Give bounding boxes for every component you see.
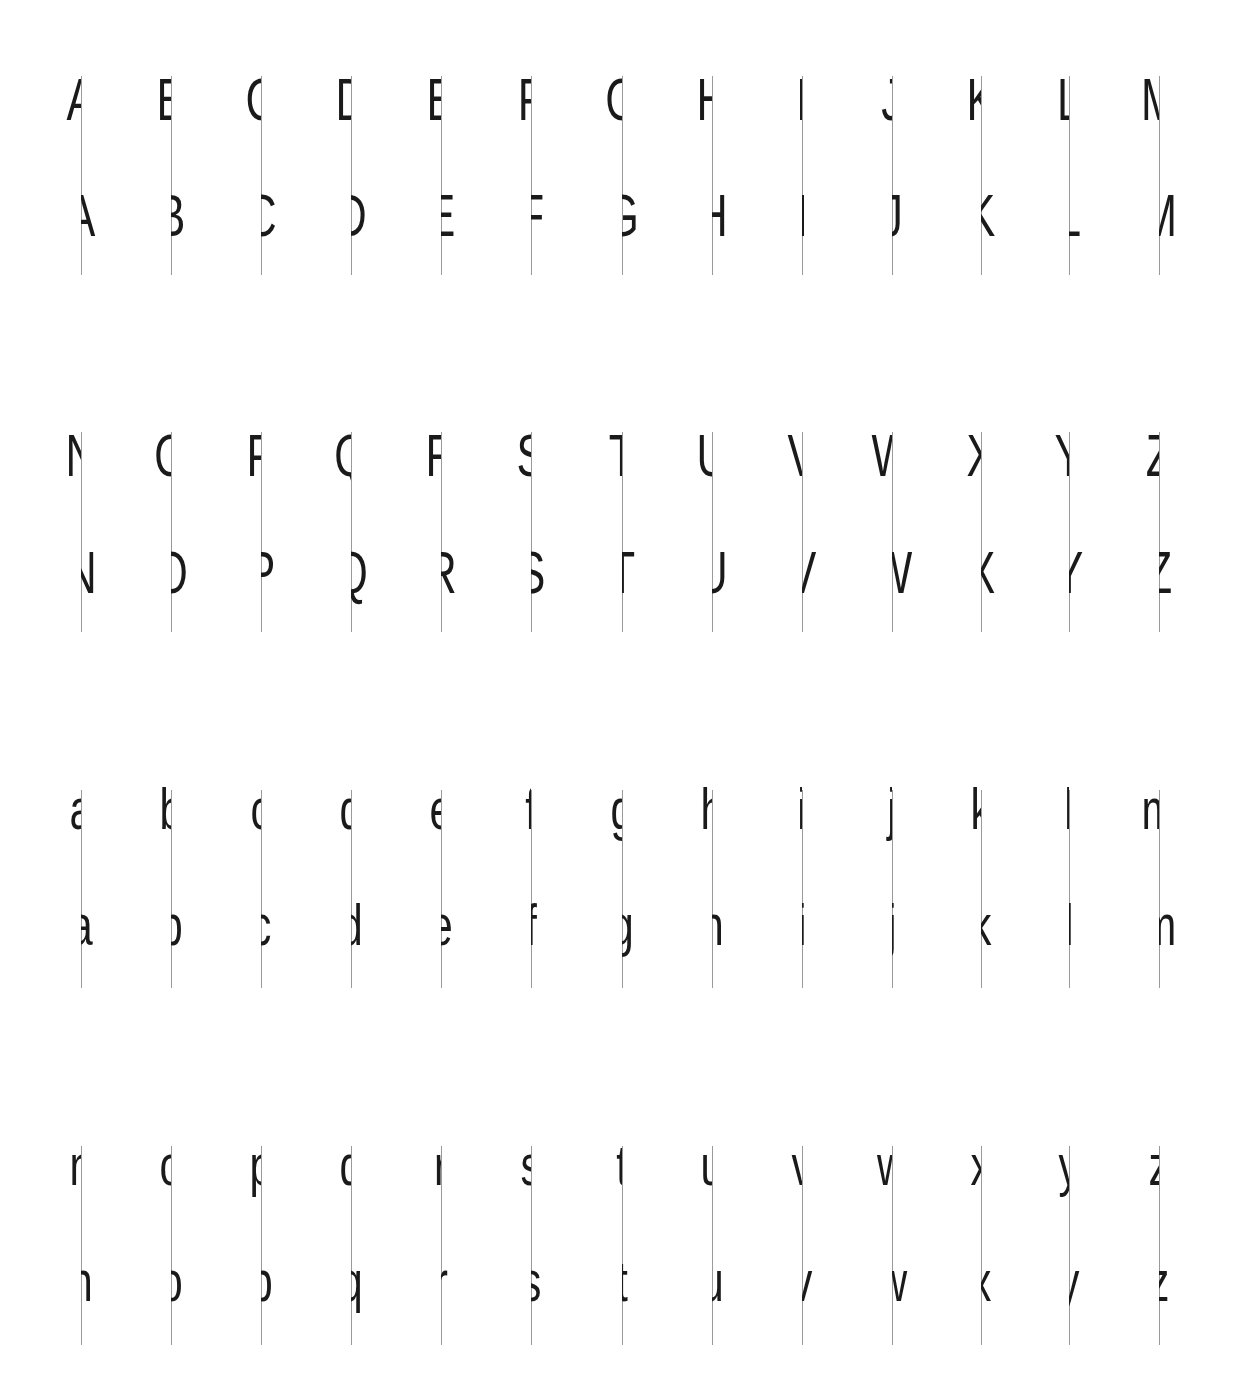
left-half-m: m xyxy=(1099,780,1159,850)
glyph: B xyxy=(128,70,171,130)
glyph: n xyxy=(38,1136,81,1194)
glyph: g xyxy=(622,896,665,954)
left-half-V: V xyxy=(742,426,802,496)
glyph: P xyxy=(261,543,304,603)
glyph: H xyxy=(712,186,755,246)
glyph: j xyxy=(892,896,935,954)
right-half-T: T xyxy=(622,543,682,613)
glyph: k xyxy=(981,896,1024,954)
glyph: f xyxy=(488,780,531,838)
glyph: d xyxy=(351,896,394,954)
glyph: q xyxy=(308,1136,351,1194)
right-half-y: y xyxy=(1069,1252,1129,1322)
glyph: v xyxy=(802,1252,845,1310)
glyph: w xyxy=(892,1252,935,1310)
right-half-g: g xyxy=(622,896,682,966)
glyph: G xyxy=(622,186,665,246)
glyph: c xyxy=(261,896,304,954)
right-half-e: e xyxy=(441,896,501,966)
right-half-E: E xyxy=(441,186,501,256)
glyph: T xyxy=(622,543,665,603)
glyph: D xyxy=(351,186,394,246)
right-half-S: S xyxy=(531,543,591,613)
glyph: V xyxy=(802,543,845,603)
left-half-r: r xyxy=(381,1136,441,1206)
left-half-z: z xyxy=(1099,1136,1159,1206)
glyph: Q xyxy=(351,543,394,603)
left-half-i: i xyxy=(742,780,802,850)
glyph: L xyxy=(1026,70,1069,130)
glyph: W xyxy=(892,543,935,603)
glyph: u xyxy=(712,1252,755,1310)
glyph: O xyxy=(171,543,214,603)
glyph: p xyxy=(218,1136,261,1194)
glyph: r xyxy=(398,1136,441,1194)
glyph: K xyxy=(981,186,1024,246)
left-half-P: P xyxy=(201,426,261,496)
glyph: T xyxy=(579,426,622,486)
left-half-E: E xyxy=(381,70,441,140)
right-half-o: o xyxy=(171,1252,231,1322)
right-half-O: O xyxy=(171,543,231,613)
left-half-B: B xyxy=(111,70,171,140)
glyph: I xyxy=(802,186,845,246)
right-half-L: L xyxy=(1069,186,1129,256)
left-half-U: U xyxy=(652,426,712,496)
glyph: E xyxy=(441,186,484,246)
right-half-a: a xyxy=(81,896,141,966)
glyph: t xyxy=(622,1252,665,1310)
glyph: i xyxy=(759,780,802,838)
glyph: S xyxy=(531,543,574,603)
glyph: M xyxy=(1159,186,1202,246)
right-half-U: U xyxy=(712,543,772,613)
glyph: X xyxy=(981,543,1024,603)
glyph: Q xyxy=(308,426,351,486)
left-half-w: w xyxy=(832,1136,892,1206)
glyph: y xyxy=(1026,1136,1069,1194)
glyph: b xyxy=(128,780,171,838)
glyph: X xyxy=(938,426,981,486)
right-half-Y: Y xyxy=(1069,543,1129,613)
left-half-I: I xyxy=(742,70,802,140)
right-half-P: P xyxy=(261,543,321,613)
left-half-u: u xyxy=(652,1136,712,1206)
right-half-l: l xyxy=(1069,896,1129,966)
right-half-G: G xyxy=(622,186,682,256)
left-half-R: R xyxy=(381,426,441,496)
right-half-d: d xyxy=(351,896,411,966)
glyph: o xyxy=(128,1136,171,1194)
glyph: p xyxy=(261,1252,304,1310)
right-half-i: i xyxy=(802,896,862,966)
left-half-h: h xyxy=(652,780,712,850)
glyph: t xyxy=(579,1136,622,1194)
right-half-M: M xyxy=(1159,186,1219,256)
glyph: Z xyxy=(1116,426,1159,486)
left-half-n: n xyxy=(21,1136,81,1206)
glyph: J xyxy=(849,70,892,130)
glyph: r xyxy=(441,1252,484,1310)
glyph: P xyxy=(218,426,261,486)
glyph: F xyxy=(488,70,531,130)
left-half-W: W xyxy=(832,426,892,496)
right-half-x: x xyxy=(981,1252,1041,1322)
glyph: R xyxy=(441,543,484,603)
right-half-s: s xyxy=(531,1252,591,1322)
left-half-y: y xyxy=(1009,1136,1069,1206)
glyph: Y xyxy=(1069,543,1112,603)
left-half-l: l xyxy=(1009,780,1069,850)
glyph: h xyxy=(712,896,755,954)
glyph: x xyxy=(938,1136,981,1194)
glyph: k xyxy=(938,780,981,838)
right-half-j: j xyxy=(892,896,952,966)
glyph: v xyxy=(759,1136,802,1194)
right-half-I: I xyxy=(802,186,862,256)
glyph: y xyxy=(1069,1252,1112,1310)
glyph: w xyxy=(849,1136,892,1194)
left-half-d: d xyxy=(291,780,351,850)
left-half-S: S xyxy=(471,426,531,496)
glyph: l xyxy=(1069,896,1112,954)
glyph: A xyxy=(38,70,81,130)
left-half-o: o xyxy=(111,1136,171,1206)
glyph: e xyxy=(398,780,441,838)
right-half-C: C xyxy=(261,186,321,256)
